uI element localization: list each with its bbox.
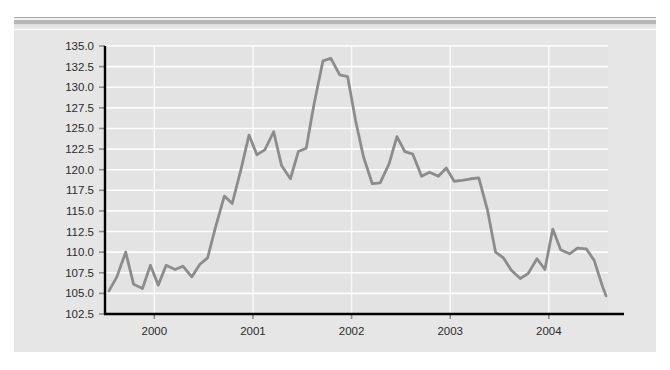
y-axis-tick-label: 135.0: [65, 40, 94, 52]
x-axis-tick-label: 2004: [536, 325, 562, 337]
y-axis-tick-label: 120.0: [65, 164, 94, 176]
x-axis-tick-label: 2002: [339, 325, 365, 337]
y-axis-tick-label: 110.0: [66, 246, 94, 258]
x-axis-tick-label: 2000: [142, 325, 168, 337]
plot-background: [105, 46, 608, 314]
y-axis-tick-label: 117.5: [66, 184, 94, 196]
chart-figure: 102.5105.0107.5110.0112.5115.0117.5120.0…: [14, 30, 656, 352]
y-axis-tick-label: 127.5: [65, 102, 94, 114]
y-axis-tick-label: 130.0: [65, 81, 94, 93]
y-axis-tick-label: 132.5: [65, 61, 94, 73]
y-axis-tick-label: 112.5: [66, 226, 94, 238]
chart-page: 102.5105.0107.5110.0112.5115.0117.5120.0…: [0, 0, 670, 370]
y-axis-tick-label: 122.5: [65, 143, 94, 155]
decorative-rule-fade: [14, 24, 656, 29]
y-axis-tick-label: 102.5: [65, 308, 94, 320]
x-axis-tick-label: 2003: [437, 325, 463, 337]
y-axis-tick-label: 125.0: [65, 122, 94, 134]
x-axis-tick-label: 2001: [240, 325, 266, 337]
y-axis-tick-label: 107.5: [65, 267, 94, 279]
decorative-rule: [14, 17, 656, 29]
y-axis-tick-label: 115.0: [66, 205, 94, 217]
y-axis-tick-labels: 102.5105.0107.5110.0112.5115.0117.5120.0…: [65, 40, 94, 320]
y-axis-tick-label: 105.0: [65, 287, 94, 299]
x-axis-tick-labels: 20002001200220032004: [142, 325, 563, 337]
line-chart: 102.5105.0107.5110.0112.5115.0117.5120.0…: [14, 30, 656, 352]
